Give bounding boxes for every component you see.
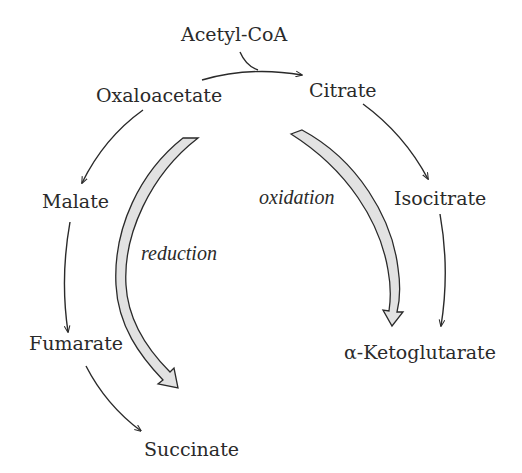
node-citrate: Citrate	[309, 79, 377, 101]
node-alpha-ketoglutarate: α-Ketoglutarate	[344, 341, 496, 363]
node-isocitrate: Isocitrate	[394, 187, 486, 209]
node-succinate: Succinate	[144, 438, 239, 460]
arrow-isocitrate-to-akg	[440, 214, 445, 326]
node-acetyl-coa: Acetyl-CoA	[180, 23, 287, 45]
node-fumarate: Fumarate	[29, 332, 123, 354]
label-reduction: reduction	[141, 242, 217, 264]
node-malate: Malate	[42, 190, 109, 212]
arrow-oxaloacetate-to-citrate	[202, 71, 302, 80]
arrow-fumarate-to-succinate	[86, 366, 141, 431]
arrow-malate-to-fumarate	[64, 222, 70, 332]
label-oxidation: oxidation	[259, 186, 335, 208]
tca-cycle-diagram: Acetyl-CoA Oxaloacetate Citrate Isocitra…	[0, 0, 522, 473]
arrow-oxaloacetate-to-malate	[82, 110, 143, 183]
oxidation-branch-arrow	[291, 130, 403, 326]
arrow-acetyl-coa-input	[240, 52, 258, 70]
node-oxaloacetate: Oxaloacetate	[96, 84, 222, 106]
arrow-citrate-to-isocitrate	[363, 104, 428, 179]
